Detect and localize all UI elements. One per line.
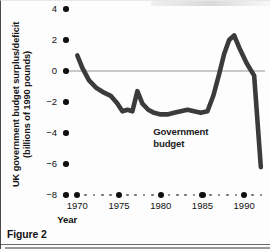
- figure-caption: Figure 2: [7, 229, 47, 240]
- plot-area: 420−2−4−6−8 19701975198019851990 Governm…: [39, 9, 267, 195]
- y-axis-title: UK government budget surplus/deficit (bi…: [11, 6, 34, 202]
- x-axis-tick-label: 1990: [222, 200, 266, 211]
- series-annotation-government-budget: Government budget: [153, 126, 208, 149]
- figure-container: UK government budget surplus/deficit (bi…: [0, 0, 270, 249]
- x-axis-tick-label: 1970: [55, 200, 99, 211]
- x-axis-title: Year: [57, 214, 77, 225]
- series-annotation-line-2: budget: [153, 138, 208, 150]
- government-budget-line-series: [39, 9, 267, 195]
- x-axis-tick-label: 1975: [97, 200, 141, 211]
- caption-rule-secondary: [5, 247, 270, 249]
- caption-rule: [1, 244, 270, 245]
- scan-artifact: [151, 1, 270, 6]
- series-annotation-line-1: Government: [153, 126, 208, 138]
- x-axis-tick-label: 1985: [180, 200, 224, 211]
- x-axis-tick-label: 1980: [139, 200, 183, 211]
- y-axis-title-line-2: (billions of 1990 pounds): [22, 6, 33, 202]
- y-axis-title-line-1: UK government budget surplus/deficit: [11, 6, 22, 202]
